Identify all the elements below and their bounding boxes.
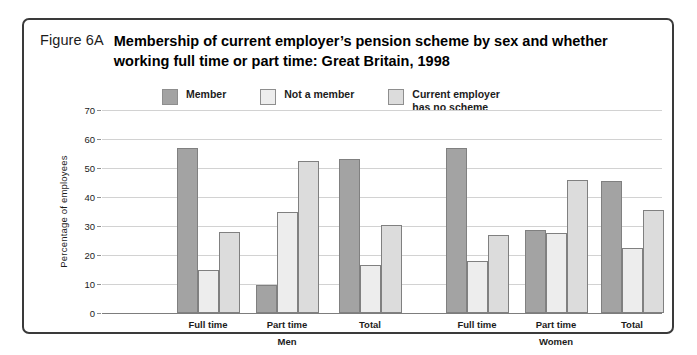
- bars: [102, 110, 662, 313]
- category-label: Total: [621, 319, 643, 330]
- figure-header: Figure 6A Membership of current employer…: [40, 32, 660, 71]
- figure-title: Membership of current employer’s pension…: [114, 32, 634, 71]
- bar: [381, 225, 402, 313]
- bar: [298, 161, 319, 313]
- category-label: Full time: [188, 319, 227, 330]
- y-tick-label: 40: [84, 192, 95, 203]
- bar: [643, 210, 664, 313]
- group-label: Men: [278, 336, 297, 347]
- bar: [446, 148, 467, 313]
- legend-item[interactable]: Member: [162, 88, 226, 105]
- legend-swatch-icon: [260, 89, 276, 105]
- bar: [567, 180, 588, 313]
- gridline: [102, 313, 662, 314]
- bar: [622, 248, 643, 313]
- y-tick-mark: [97, 110, 101, 111]
- y-tick-label: 10: [84, 279, 95, 290]
- legend-label: Not a member: [284, 88, 354, 101]
- bar: [488, 235, 509, 313]
- y-tick-mark: [97, 226, 101, 227]
- legend-swatch-icon: [388, 89, 404, 105]
- bar: [525, 230, 546, 313]
- bar: [467, 261, 488, 313]
- y-tick-label: 70: [84, 105, 95, 116]
- y-tick-label: 30: [84, 221, 95, 232]
- y-tick-label: 0: [90, 308, 95, 319]
- y-tick-mark: [97, 168, 101, 169]
- legend-item[interactable]: Not a member: [260, 88, 354, 105]
- y-tick-mark: [97, 284, 101, 285]
- bar: [256, 285, 277, 313]
- legend-label: Member: [186, 88, 226, 101]
- category-label: Part time: [267, 319, 308, 330]
- y-tick-label: 20: [84, 250, 95, 261]
- bar: [177, 148, 198, 313]
- category-label: Full time: [457, 319, 496, 330]
- bar: [546, 233, 567, 313]
- bar: [339, 159, 360, 313]
- bar: [219, 232, 240, 313]
- y-tick-mark: [97, 255, 101, 256]
- y-tick-label: 60: [84, 134, 95, 145]
- bar: [601, 181, 622, 313]
- figure-number: Figure 6A: [40, 32, 114, 48]
- bar: [198, 270, 219, 314]
- bar: [360, 265, 381, 313]
- category-label: Total: [359, 319, 381, 330]
- y-tick-mark: [97, 313, 101, 314]
- y-tick-label: 50: [84, 163, 95, 174]
- category-label: Part time: [536, 319, 577, 330]
- figure-frame: Figure 6A Membership of current employer…: [22, 18, 674, 334]
- group-label: Women: [539, 336, 573, 347]
- y-tick-mark: [97, 139, 101, 140]
- bar: [277, 212, 298, 314]
- y-tick-mark: [97, 197, 101, 198]
- y-axis-title: Percentage of employees: [58, 110, 72, 313]
- plot-area: 010203040506070: [102, 110, 662, 313]
- legend-swatch-icon: [162, 89, 178, 105]
